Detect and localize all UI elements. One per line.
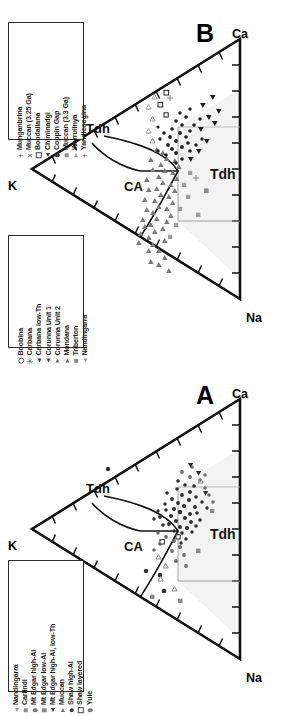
triangle-left-filled-icon [49,705,58,716]
legend-item-label: Corunna Unit 1 [44,306,53,355]
circle-filled-icon [53,150,62,161]
legend-item[interactable]: Muccan (3.3 Ga) [62,51,71,161]
legend-b-rows: +Munganbrina×Muccan (3.25 Ga)BoodalianaC… [16,51,86,161]
legend-item-label: Munganbrina [16,106,25,149]
triangle-left-filled-icon [34,355,43,366]
square-open-icon [34,150,43,161]
legend-item[interactable]: Carbana low-Th [34,261,43,366]
legend-item[interactable]: Mondana [62,261,71,366]
legend-item-label: Boobina [16,327,25,355]
circle-gray-icon [30,705,39,716]
legend-item-label: Triberton [71,325,80,355]
plus-icon: + [80,150,89,161]
legend-item[interactable]: Triberton [71,261,80,366]
legend-item-label: Carbana low-Th [34,303,43,355]
legend-item-label: Carlindi [21,679,30,705]
panel-b-apex-label-na: Na [246,311,262,325]
square-gray-icon [71,355,80,366]
triangle-left-open-icon [80,355,89,366]
legend-box-b[interactable]: +Munganbrina×Muccan (3.25 Ga)BoodalianaC… [8,22,84,140]
panel-b-apex-label-k: K [8,179,17,193]
legend-item[interactable]: Nandingarra [12,592,21,716]
legend-item-label: Mondana [62,325,71,355]
legend-item-label: Mt Edgar high-Al [30,649,39,704]
panel-a-tdh-shaded-field [178,449,240,639]
triangle-left-filled-icon [44,150,53,161]
square-open-icon [76,705,85,716]
legend-item[interactable]: Mt Edgar high-Al, low-Th [49,592,58,716]
legend-item[interactable]: Boodaliana [34,51,43,161]
legend-item[interactable]: Coppin Gap [53,51,62,161]
panel-a-field-divider-curves [92,496,178,629]
cross-icon: × [25,150,34,161]
legend-item-label: Shaw layered [76,660,85,704]
triangle-right-filled-icon [58,705,67,716]
panel-b-label-CA: CA [124,179,143,194]
panel-a-letter: A [196,381,213,410]
legend-item-label: Nandingarra [80,314,89,355]
legend-item-label: Chiminadgi [44,112,53,150]
panel-a-label-Tdh-upper: Tdh [86,481,110,496]
legend-item-label: Muccan (3.25 Ga) [25,93,34,150]
legend-item[interactable]: Nandingarra [80,261,89,366]
panel-a-label-Tdh-lower: Tdh [210,526,236,542]
square-gray-icon [62,150,71,161]
circle-gray-icon [86,705,95,716]
legend-item-label: Muccan (3.3 Ga) [62,97,71,150]
legend-item-label: Yule [86,690,95,704]
legend-item-label: Yandicoogina [80,105,89,150]
legend-item[interactable]: ×Muccan (3.25 Ga) [25,51,34,161]
legend-item[interactable]: Corunna Unit 2 [53,261,62,366]
square-gray-icon [21,705,30,716]
legend-item[interactable]: Chiminadgi [44,51,53,161]
star-icon: ✳ [25,355,34,366]
triangle-right-filled-icon [53,355,62,366]
legend-item[interactable]: Boobina [16,261,25,366]
legend-item[interactable]: +Munganbrina [16,51,25,161]
legend-item[interactable]: Corunna Unit 1 [44,261,53,366]
legend-a-rows: NandingarraCarlindiMt Edgar high-AlMt Ed… [12,592,90,716]
legend-item-label: Nandingarra [12,664,21,705]
circle-filled-icon [67,705,76,716]
legend-item-label: Corunna Unit 2 [53,306,62,355]
legend-middle-rows: Boobina✳CarbanaCarbana low-ThCorunna Uni… [16,261,86,366]
panel-b-label-Tdh-upper: Tdh [86,121,110,136]
legend-item[interactable]: ✳Carbana [25,261,34,366]
triangle-left-filled-icon [44,355,53,366]
legend-item-label: Warrulinya [71,114,80,149]
triangle-right-filled-icon [62,355,71,366]
legend-item[interactable]: Muccan [58,592,67,716]
panel-b-apex-label-ca: Ca [232,27,248,41]
legend-item[interactable]: +Yandicoogina [80,51,89,161]
panel-a-apex-label-ca: Ca [232,387,248,401]
legend-item[interactable]: Shaw layered [76,592,85,716]
legend-item-label: Mt Edgar high-Al, low-Th [49,623,58,704]
legend-box-middle[interactable]: Boobina✳CarbanaCarbana low-ThCorunna Uni… [8,235,84,348]
legend-item[interactable]: Mt Edgar low-Al [40,592,49,716]
panel-a-label-CA: CA [124,539,143,554]
legend-item-label: Carbana [25,327,34,355]
legend-item-label: Mt Edgar low-Al [40,652,49,704]
legend-item[interactable]: Warrulinya [71,51,80,161]
legend-item-label: Coppin Gap [53,110,62,149]
square-gray-icon [40,705,49,716]
legend-item[interactable]: Yule [86,592,95,716]
panel-a-apex-label-k: K [8,539,17,553]
legend-item-label: Shaw high-Al [67,661,76,705]
triangle-left-open-icon [12,705,21,716]
legend-item-label: Muccan [58,679,67,705]
legend-item[interactable]: Mt Edgar high-Al [30,592,39,716]
legend-item[interactable]: Carlindi [21,592,30,716]
panel-b-letter: B [196,19,213,48]
panel-b-label-Tdh-lower: Tdh [210,166,236,182]
legend-item-label: Boodaliana [34,112,43,149]
legend-item[interactable]: Shaw high-Al [67,592,76,716]
panel-a-apex-label-na: Na [246,671,262,685]
legend-box-a[interactable]: NandingarraCarlindiMt Edgar high-AlMt Ed… [8,560,84,692]
